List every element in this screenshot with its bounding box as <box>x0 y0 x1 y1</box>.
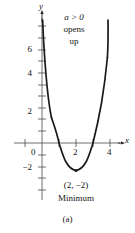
vertex-coordinates-label: (2, −2) <box>50 181 102 190</box>
annotation-up: up <box>52 37 96 46</box>
x-tick-label-4: 4 <box>107 148 112 157</box>
annotation-condition: a > 0 <box>52 13 96 22</box>
y-axis-label: y <box>39 2 43 11</box>
y-axis <box>38 14 46 200</box>
x-axis <box>14 139 121 147</box>
annotation-opens: opens <box>52 25 96 34</box>
y-tick-label-6: 6 <box>22 45 32 54</box>
y-tick-label-neg2: −2 <box>16 163 32 172</box>
x-tick-label-0: 0 <box>31 148 36 157</box>
figure-caption: (a) <box>0 215 135 224</box>
minimum-label: Minimum <box>48 194 104 203</box>
x-axis-label: x <box>125 136 129 145</box>
parabola-figure: y x 6 4 2 −2 0 2 4 a > 0 opens up (2, −2… <box>0 0 135 233</box>
x-tick-label-2: 2 <box>73 148 78 157</box>
y-tick-label-4: 4 <box>22 69 32 78</box>
y-tick-label-2: 2 <box>22 107 32 116</box>
